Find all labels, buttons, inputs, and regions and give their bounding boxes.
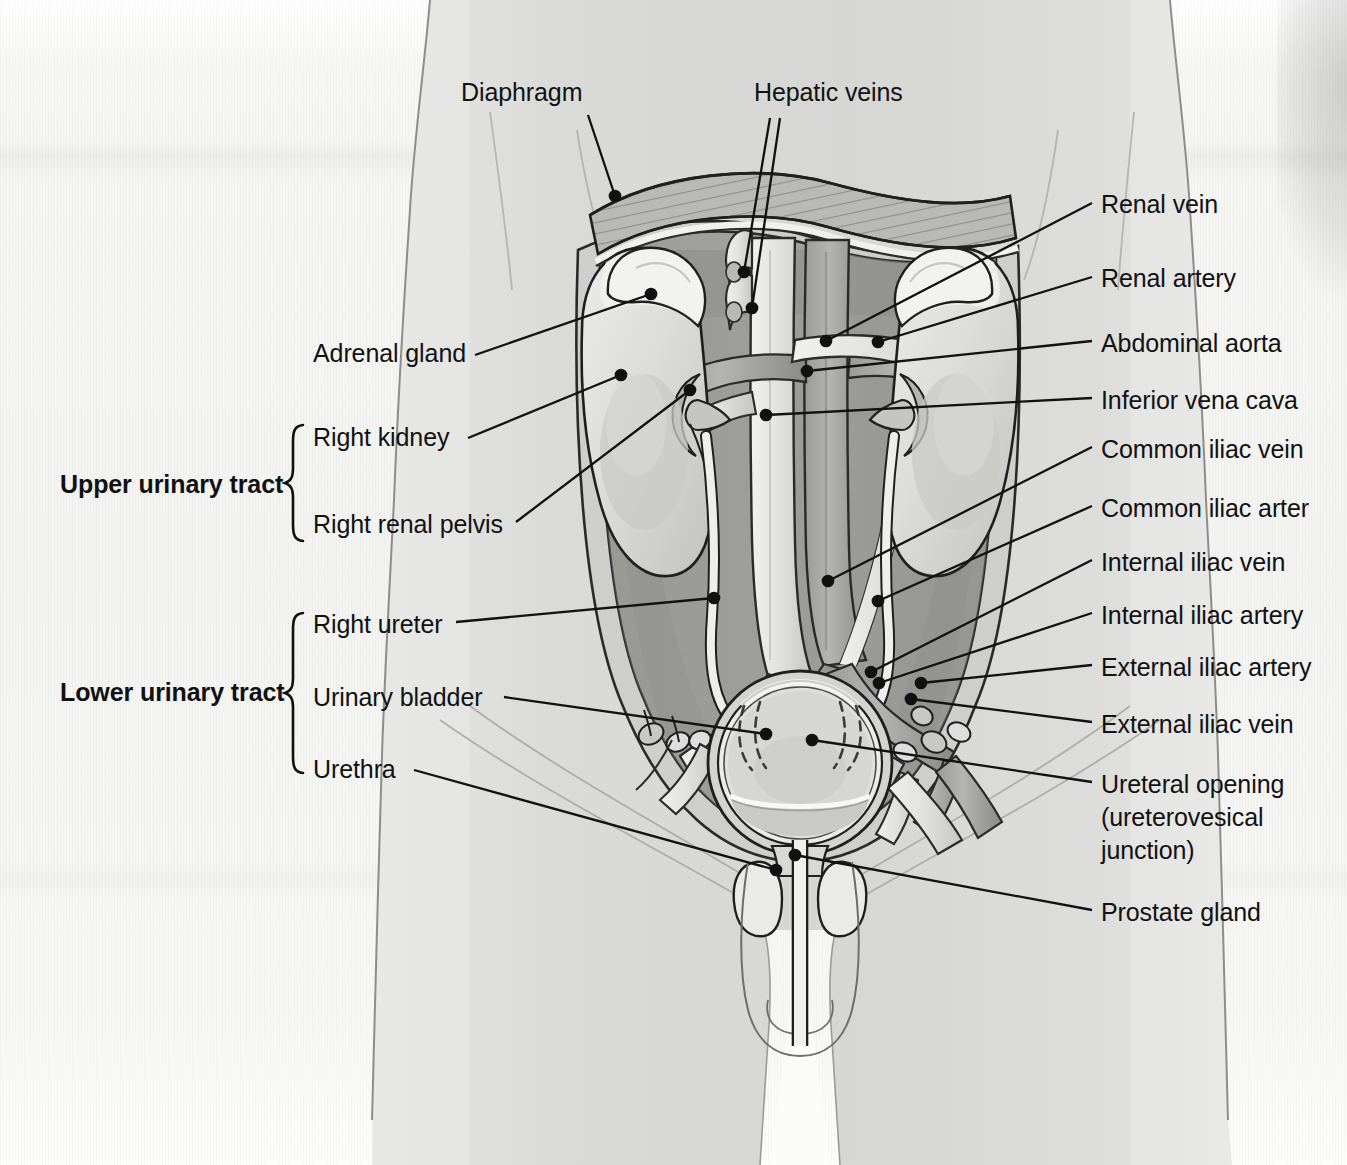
label-adrenal-gland: Adrenal gland: [313, 339, 466, 368]
label-inferior-vena-cava: Inferior vena cava: [1101, 386, 1298, 415]
label-lower-urinary-tract: Lower urinary tract: [60, 678, 285, 707]
label-ureteral-opening-line3: junction): [1101, 836, 1195, 865]
label-upper-urinary-tract: Upper urinary tract: [60, 470, 283, 499]
label-ureteral-opening-line1: Ureteral opening: [1101, 770, 1284, 799]
anatomy-illustration: [0, 0, 1347, 1165]
label-renal-artery: Renal artery: [1101, 264, 1236, 293]
urinary-bladder-organ: [708, 671, 892, 855]
label-common-iliac-vein: Common iliac vein: [1101, 435, 1304, 464]
figure-canvas: Diaphragm Hepatic veins Adrenal gland Ri…: [0, 0, 1347, 1165]
label-abdominal-aorta: Abdominal aorta: [1101, 329, 1282, 358]
label-hepatic-veins: Hepatic veins: [754, 78, 903, 107]
label-right-renal-pelvis: Right renal pelvis: [313, 510, 503, 539]
label-right-ureter: Right ureter: [313, 610, 442, 639]
label-external-iliac-vein: External iliac vein: [1101, 710, 1294, 739]
label-urinary-bladder: Urinary bladder: [313, 683, 482, 712]
label-common-iliac-artery: Common iliac arter: [1101, 494, 1309, 523]
label-urethra: Urethra: [313, 755, 396, 784]
label-prostate-gland: Prostate gland: [1101, 898, 1261, 927]
label-internal-iliac-vein: Internal iliac vein: [1101, 548, 1285, 577]
label-right-kidney: Right kidney: [313, 423, 449, 452]
label-renal-vein: Renal vein: [1101, 190, 1218, 219]
label-external-iliac-artery: External iliac artery: [1101, 653, 1311, 682]
label-diaphragm: Diaphragm: [461, 78, 582, 107]
label-internal-iliac-artery: Internal iliac artery: [1101, 601, 1303, 630]
group-braces: [285, 425, 303, 773]
label-ureteral-opening-line2: (ureterovesical: [1101, 803, 1263, 832]
